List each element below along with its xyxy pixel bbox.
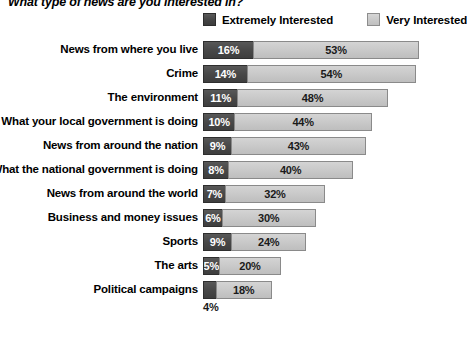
bar-segment-extremely-interested: 16% <box>203 41 253 59</box>
chart-row: The arts5%20% <box>0 256 432 280</box>
stacked-bar: 8%40% <box>203 161 353 179</box>
bar-segment-very-interested: 54% <box>247 65 416 83</box>
bar-segment-extremely-interested: 9% <box>203 137 231 155</box>
bar-segment-extremely-interested: 7% <box>203 185 225 203</box>
bar-segment-extremely-interested: 6% <box>203 209 222 227</box>
legend-label-very-interested: Very Interested <box>386 14 467 26</box>
bar-value-label: 54% <box>321 69 342 80</box>
bar-segment-extremely-interested: 11% <box>203 89 237 107</box>
chart-title: What type of news are you interested in? <box>8 0 243 9</box>
legend-label-extremely-interested: Extremely Interested <box>222 14 333 26</box>
bar-segment-very-interested: 30% <box>222 209 316 227</box>
bar-segment-very-interested: 48% <box>237 89 387 107</box>
legend-item-very-interested: Very Interested <box>367 13 467 26</box>
bar-value-label: 9% <box>210 237 226 248</box>
bar-value-label: 11% <box>210 93 231 104</box>
bar-value-label: 5% <box>204 261 219 272</box>
bar-value-label: 48% <box>302 93 323 104</box>
bar-value-label: 43% <box>288 141 309 152</box>
category-label: The arts <box>154 259 198 271</box>
category-label: News from where you live <box>60 43 198 55</box>
stacked-bar: 10%44% <box>203 113 372 131</box>
category-label: News from around the world <box>47 187 198 199</box>
bar-segment-extremely-interested: 5% <box>203 257 219 275</box>
stacked-bar: 5%20% <box>203 257 281 275</box>
bar-value-label: 18% <box>233 285 254 296</box>
category-label: Crime <box>166 67 198 79</box>
bar-value-label: 10% <box>208 117 229 128</box>
bar-segment-extremely-interested: 4% <box>203 281 216 299</box>
chart-row: News from around the world7%32% <box>0 184 432 208</box>
stacked-bar: 9%43% <box>203 137 366 155</box>
legend-swatch-very-interested <box>367 13 380 26</box>
category-label: Sports <box>162 235 198 247</box>
bar-segment-extremely-interested: 8% <box>203 161 228 179</box>
bar-value-label: 53% <box>325 45 346 56</box>
category-label: What the national government is doing <box>0 163 198 175</box>
bar-segment-extremely-interested: 14% <box>203 65 247 83</box>
stacked-bar: 7%32% <box>203 185 325 203</box>
stacked-bar: 11%48% <box>203 89 388 107</box>
bar-value-label: 16% <box>218 45 239 56</box>
chart-row: The environment11%48% <box>0 88 432 112</box>
bar-value-label: 24% <box>258 237 279 248</box>
chart-plot-area: News from where you live16%53%Crime14%54… <box>0 40 432 304</box>
chart-row: Sports9%24% <box>0 232 432 256</box>
bar-segment-very-interested: 18% <box>216 281 272 299</box>
legend-item-extremely-interested: Extremely Interested <box>203 13 333 26</box>
bar-value-label: 40% <box>280 165 301 176</box>
chart-row: What your local government is doing10%44… <box>0 112 432 136</box>
category-label: Business and money issues <box>48 211 198 223</box>
bar-value-label: 44% <box>292 117 313 128</box>
bar-segment-extremely-interested: 9% <box>203 233 231 251</box>
stacked-bar: 9%24% <box>203 233 306 251</box>
chart-row: Political campaigns4%4%18% <box>0 280 432 304</box>
legend-swatch-extremely-interested <box>203 13 216 26</box>
category-label: What your local government is doing <box>1 115 198 127</box>
bar-segment-very-interested: 24% <box>231 233 306 251</box>
bar-value-label: 7% <box>207 189 223 200</box>
bar-value-label: 8% <box>208 165 224 176</box>
bar-segment-very-interested: 32% <box>225 185 325 203</box>
stacked-bar: 16%53% <box>203 41 419 59</box>
chart-row: What the national government is doing8%4… <box>0 160 432 184</box>
chart-row: Business and money issues6%30% <box>0 208 432 232</box>
bar-value-label: 20% <box>239 261 260 272</box>
bar-value-callout: 4% <box>203 301 219 313</box>
bar-segment-extremely-interested: 10% <box>203 113 234 131</box>
chart-legend: Extremely Interested Very Interested <box>203 13 432 26</box>
bar-segment-very-interested: 40% <box>228 161 353 179</box>
bar-segment-very-interested: 43% <box>231 137 366 155</box>
bar-segment-very-interested: 44% <box>234 113 372 131</box>
bar-segment-very-interested: 53% <box>253 41 419 59</box>
category-label: Political campaigns <box>93 283 198 295</box>
bar-value-label: 32% <box>264 189 285 200</box>
category-label: News from around the nation <box>43 139 198 151</box>
chart-row: News from around the nation9%43% <box>0 136 432 160</box>
stacked-bar: 14%54% <box>203 65 416 83</box>
bar-value-label: 14% <box>215 69 236 80</box>
stacked-bar: 6%30% <box>203 209 316 227</box>
category-label: The environment <box>108 91 198 103</box>
bar-value-label: 30% <box>258 213 279 224</box>
chart-row: Crime14%54% <box>0 64 432 88</box>
stacked-bar: 4%18% <box>203 281 272 299</box>
bar-value-label: 6% <box>205 213 221 224</box>
bar-segment-very-interested: 20% <box>219 257 282 275</box>
bar-value-label: 9% <box>210 141 226 152</box>
chart-row: News from where you live16%53% <box>0 40 432 64</box>
